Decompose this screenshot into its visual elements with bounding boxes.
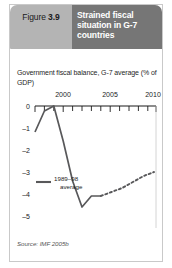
figure-title: Strained fiscal situation in G-7 countri… [77,10,158,41]
average-annotation-line1: 1989–98 [54,175,79,182]
fiscal-balance-line [35,106,101,207]
y-tick-label-minus3: –3 [22,169,30,176]
figure-label-number: 3.9 [48,12,60,22]
y-tick-label-minus1: –1 [22,125,30,132]
chart-subtitle: Government fiscal balance, G-7 average (… [17,68,159,87]
y-tick-label-minus4: –4 [22,191,30,198]
y-tick-label-minus5: –5 [22,213,30,220]
figure-label-prefix: Figure [22,12,48,22]
x-axis-tick-labels: 2000 2005 2010 [55,91,161,98]
y-tick-label-0: 0 [26,103,30,110]
figure-header: Figure 3.9 Strained fiscal situation in … [10,5,162,49]
average-annotation-line2: average [60,183,83,190]
figure-card: Figure 3.9 Strained fiscal situation in … [0,0,172,268]
chart-source: Source: IMF 2005b [17,240,69,247]
figure-title-block: Strained fiscal situation in G-7 countri… [72,5,162,49]
figure-number-text: Figure 3.9 [22,12,59,22]
y-axis-tick-labels: 0 –1 –2 –3 –4 –5 [22,103,30,220]
chart-plot-area: 2000 2005 2010 0 –1 –2 –3 –4 –5 [10,88,162,233]
x-tick-label-2000: 2000 [55,91,71,98]
fiscal-balance-projection-line [101,172,154,196]
line-chart-svg: 2000 2005 2010 0 –1 –2 –3 –4 –5 [10,88,162,233]
x-tick-label-2010: 2010 [145,91,161,98]
figure-number-tag: Figure 3.9 [10,5,72,49]
y-tick-label-minus2: –2 [22,147,30,154]
x-tick-label-2005: 2005 [102,91,118,98]
